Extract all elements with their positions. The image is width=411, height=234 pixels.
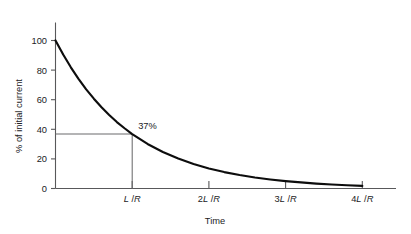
x-tick-label-2: 2L /R xyxy=(198,194,221,204)
chart-figure: 020406080100 L /R2L /R3L /R4L /R 37% Tim… xyxy=(0,0,411,234)
y-tick-label-40: 40 xyxy=(37,125,47,135)
x-axis-title: Time xyxy=(205,216,225,226)
x-tick-label-1: L /R xyxy=(124,194,141,204)
annotation-labels: 37% xyxy=(138,121,157,131)
y-axis-title: % of initial current xyxy=(14,79,24,153)
y-tick-label-60: 60 xyxy=(37,95,47,105)
x-tick-label-3: 3L /R xyxy=(274,194,297,204)
x-tick-label-4: 4L /R xyxy=(351,194,374,204)
y-tick-label-80: 80 xyxy=(37,66,47,76)
exponential-decay-chart: 020406080100 L /R2L /R3L /R4L /R 37% Tim… xyxy=(0,0,411,234)
y-tick-label-0: 0 xyxy=(42,184,47,194)
y-tick-label-100: 100 xyxy=(31,36,47,46)
y-tick-label-20: 20 xyxy=(37,154,47,164)
annotation-label-0: 37% xyxy=(138,121,157,131)
